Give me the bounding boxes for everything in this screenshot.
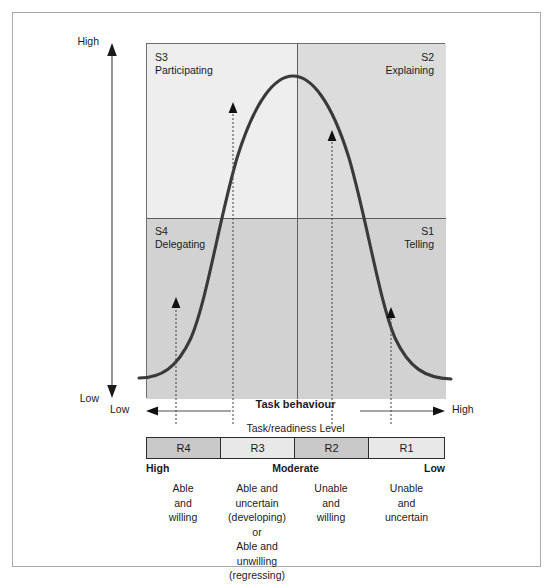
y-axis-low-label: Low xyxy=(53,392,99,404)
x-axis-high-label: High xyxy=(452,403,474,415)
y-axis-arrow-icon xyxy=(101,43,123,398)
x-axis-subtitle: Task/readiness Level xyxy=(146,422,445,434)
quadrant-label-s2: S2Explaining xyxy=(386,51,434,77)
quadrant-code-s1: S1 xyxy=(421,225,434,237)
readiness-description-r1: Unable and uncertain xyxy=(368,481,445,583)
plot-area: S3Participating S2Explaining S4Delegatin… xyxy=(146,43,445,398)
readiness-description-r2: Unable and willing xyxy=(294,481,368,583)
readiness-caption-moderate: Moderate xyxy=(146,462,445,474)
plot-horizontal-divider xyxy=(147,218,446,219)
quadrant-label-s4: S4Delegating xyxy=(155,225,205,251)
readiness-cell-r3[interactable]: R3 xyxy=(221,438,295,458)
plot-vertical-divider xyxy=(297,44,298,399)
y-axis: High Low Relationship behaviour xyxy=(101,43,123,398)
quadrant-label-s1: S1Telling xyxy=(404,225,434,251)
quadrant-code-s3: S3 xyxy=(155,51,168,63)
x-axis-title: Task behaviour xyxy=(146,398,445,410)
readiness-level-bar: R4 R3 R2 R1 xyxy=(146,437,445,459)
quadrant-name-s4: Delegating xyxy=(155,238,205,250)
readiness-cell-r1[interactable]: R1 xyxy=(369,438,444,458)
quadrant-name-s3: Participating xyxy=(155,64,213,76)
readiness-caption-low: Low xyxy=(424,462,445,474)
quadrant-name-s1: Telling xyxy=(404,238,434,250)
readiness-description-r4: Able and willing xyxy=(146,481,220,583)
readiness-descriptions: Able and willing Able and uncertain (dev… xyxy=(146,481,445,583)
figure-canvas: High Low Relationship behaviour S3Partic… xyxy=(0,0,555,588)
quadrant-label-s3: S3Participating xyxy=(155,51,213,77)
quadrant-name-s2: Explaining xyxy=(386,64,434,76)
x-axis: Task behaviour Low High xyxy=(146,404,445,420)
y-axis-high-label: High xyxy=(53,35,99,47)
quadrant-code-s2: S2 xyxy=(421,51,434,63)
readiness-captions: High Moderate Low xyxy=(146,462,445,476)
quadrant-code-s4: S4 xyxy=(155,225,168,237)
x-axis-low-label: Low xyxy=(110,403,129,415)
readiness-cell-r2[interactable]: R2 xyxy=(295,438,369,458)
readiness-description-r3: Able and uncertain (developing) or Able … xyxy=(220,481,294,583)
figure-frame: High Low Relationship behaviour S3Partic… xyxy=(12,12,541,567)
readiness-cell-r4[interactable]: R4 xyxy=(147,438,221,458)
